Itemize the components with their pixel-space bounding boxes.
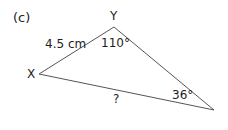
side-xy-length: 4.5 cm (45, 38, 86, 50)
vertex-label-x: X (27, 68, 35, 80)
part-label: (c) (13, 12, 30, 24)
angle-y-value: 110° (101, 37, 130, 49)
angle-z-value: 36° (172, 89, 193, 101)
side-xz-unknown: ? (113, 93, 119, 105)
vertex-label-y: Y (110, 10, 117, 22)
